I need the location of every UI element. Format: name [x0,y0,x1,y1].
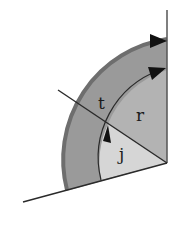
label-r: r [136,105,145,125]
label-j: j [117,144,124,164]
angle-sector-diagram: t r j [0,0,187,231]
label-t: t [98,93,105,113]
